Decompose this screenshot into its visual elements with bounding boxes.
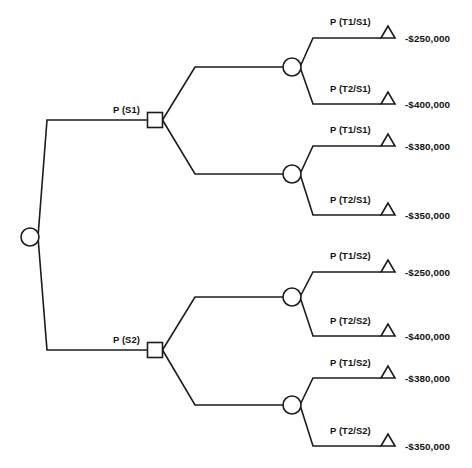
decision-node-s1[interactable] (148, 113, 163, 128)
decision-tree-diagram: P (S1)P (T1/S1)-$250,000P (T2/S1)-$400,0… (0, 0, 472, 468)
terminal-s2-t3-branch-label: P (T1/S2) (330, 357, 371, 368)
terminal-s1-t1-triangle[interactable] (381, 26, 395, 38)
terminal-s1-t1-payoff-label: -$250,000 (405, 33, 450, 44)
terminal-s2-t3-payoff-label: -$380,000 (405, 373, 450, 384)
edges-layer (38, 38, 381, 446)
terminal-s1-t4-triangle[interactable] (381, 203, 395, 215)
edge-root-to-s1 (38, 120, 148, 237)
labels-layer: P (S1)P (T1/S1)-$250,000P (T2/S1)-$400,0… (113, 16, 450, 452)
edge-chance-node-s1-a-to-terminal-s1-t1 (300, 38, 381, 67)
terminal-s1-t1-branch-label: P (T1/S1) (330, 16, 371, 27)
decision-node-s2[interactable] (148, 343, 163, 358)
edge-decision-node-s1-to-chance-node-s1-a (163, 67, 284, 120)
branch-label-s2: P (S2) (113, 334, 140, 345)
edge-chance-node-s2-b-to-terminal-s2-t3 (300, 378, 381, 405)
terminal-s1-t2-triangle[interactable] (381, 92, 395, 104)
branch-label-s1: P (S1) (113, 104, 140, 115)
edge-chance-node-s1-b-to-terminal-s1-t3 (300, 146, 381, 174)
terminal-s1-t2-payoff-label: -$400,000 (405, 99, 450, 110)
terminal-s1-t3-triangle[interactable] (381, 134, 395, 146)
chance-node-s2-b[interactable] (283, 396, 301, 414)
terminal-s1-t4-payoff-label: -$350,000 (405, 210, 450, 221)
terminal-s1-t3-branch-label: P (T1/S1) (330, 124, 371, 135)
terminal-s2-t1-branch-label: P (T1/S2) (330, 250, 371, 261)
terminal-s2-t4-branch-label: P (T2/S2) (330, 425, 371, 436)
chance-node-s1-a[interactable] (283, 58, 301, 76)
edge-decision-node-s2-to-chance-node-s2-a (163, 297, 284, 350)
chance-node-s1-b[interactable] (283, 165, 301, 183)
edge-chance-node-s2-a-to-terminal-s2-t1 (300, 272, 381, 297)
terminal-s2-t1-payoff-label: -$250,000 (405, 267, 450, 278)
terminal-s2-t4-triangle[interactable] (381, 434, 395, 446)
terminal-s2-t2-triangle[interactable] (381, 324, 395, 336)
terminal-s2-t2-payoff-label: -$400,000 (405, 331, 450, 342)
terminal-s2-t2-branch-label: P (T2/S2) (330, 315, 371, 326)
terminal-s2-t4-payoff-label: -$350,000 (405, 441, 450, 452)
root-chance-node[interactable] (21, 228, 39, 246)
chance-node-s2-a[interactable] (283, 288, 301, 306)
terminal-s2-t1-triangle[interactable] (381, 260, 395, 272)
edge-decision-node-s1-to-chance-node-s1-b (163, 120, 284, 174)
terminal-s1-t3-payoff-label: -$380,000 (405, 141, 450, 152)
terminal-s1-t4-branch-label: P (T2/S1) (330, 194, 371, 205)
terminal-s1-t2-branch-label: P (T2/S1) (330, 83, 371, 94)
terminal-s2-t3-triangle[interactable] (381, 366, 395, 378)
edge-decision-node-s2-to-chance-node-s2-b (163, 350, 284, 405)
